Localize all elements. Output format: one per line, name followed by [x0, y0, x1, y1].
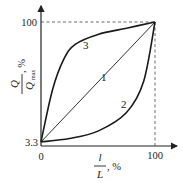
x-tick-label: 100: [147, 150, 163, 161]
chart: 1231003.30100lL, %QQmax, %: [0, 0, 183, 183]
x-axis-label-numerator: l: [98, 151, 101, 163]
y-axis-label-numerator: Q: [8, 80, 20, 88]
y-axis-label-unit: , %: [16, 59, 27, 73]
series-label-1: 1: [101, 71, 107, 83]
x-axis-label-denominator: L: [96, 168, 103, 180]
series-label-3: 3: [83, 39, 89, 51]
x-tick-label: 0: [38, 151, 43, 162]
series-label-2: 2: [121, 98, 127, 110]
y-tick-label: 100: [21, 17, 37, 28]
y-axis-label: QQmax, %: [8, 59, 36, 94]
y-axis-label-denominator-sub: max: [30, 70, 36, 80]
y-tick-label: 3.3: [25, 137, 38, 148]
x-axis-label-unit: , %: [107, 161, 121, 172]
y-axis-label-denominator: Q: [23, 82, 35, 90]
series-line-1: [41, 22, 155, 142]
